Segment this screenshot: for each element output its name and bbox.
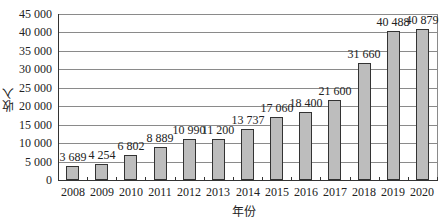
value-label: 31 660 xyxy=(339,48,389,60)
x-tick-label: 2013 xyxy=(203,186,233,198)
bar-2010 xyxy=(124,155,137,180)
x-tick-mark xyxy=(291,177,292,181)
bar-2008 xyxy=(66,166,79,180)
gridline xyxy=(58,32,437,33)
y-tick-label: 0 xyxy=(2,174,52,186)
y-tick-label: 5 000 xyxy=(2,156,52,168)
value-label: 13 737 xyxy=(223,114,273,126)
x-tick-label: 2020 xyxy=(407,186,437,198)
bar-2012 xyxy=(183,139,196,180)
y-tick-label: 25 000 xyxy=(2,82,52,94)
x-tick-mark xyxy=(175,177,176,181)
bar-2020 xyxy=(416,29,429,180)
value-label: 18 400 xyxy=(281,97,331,109)
y-tick-label: 35 000 xyxy=(2,45,52,57)
bar-2018 xyxy=(358,63,371,180)
gridline xyxy=(58,88,437,89)
x-tick-mark xyxy=(379,177,380,181)
x-tick-mark xyxy=(116,177,117,181)
x-tick-label: 2010 xyxy=(116,186,146,198)
right-frame-line xyxy=(437,14,438,180)
y-tick-label: 10 000 xyxy=(2,137,52,149)
y-tick-label: 45 000 xyxy=(2,8,52,20)
bar-2009 xyxy=(95,164,108,180)
bar-2017 xyxy=(328,100,341,180)
gridline xyxy=(58,180,437,181)
revenue-bar-chart: 收入 年份 05 00010 00015 00020 00025 00030 0… xyxy=(0,0,445,220)
bar-2015 xyxy=(270,117,283,180)
x-axis-title: 年份 xyxy=(232,202,256,220)
x-tick-mark xyxy=(262,177,263,181)
x-tick-mark xyxy=(233,177,234,181)
y-tick-label: 30 000 xyxy=(2,63,52,75)
x-tick-mark xyxy=(145,177,146,181)
gridline xyxy=(58,69,437,70)
x-tick-mark xyxy=(87,177,88,181)
x-tick-label: 2019 xyxy=(378,186,408,198)
bar-2016 xyxy=(299,112,312,180)
x-tick-mark xyxy=(204,177,205,181)
x-tick-label: 2011 xyxy=(145,186,175,198)
gridline xyxy=(58,106,437,107)
value-label: 21 600 xyxy=(310,85,360,97)
y-tick-label: 15 000 xyxy=(2,119,52,131)
x-tick-label: 2018 xyxy=(349,186,379,198)
x-tick-mark xyxy=(320,177,321,181)
x-tick-mark xyxy=(408,177,409,181)
y-tick-label: 20 000 xyxy=(2,100,52,112)
x-tick-label: 2009 xyxy=(87,186,117,198)
value-label: 40 879 xyxy=(397,14,445,26)
bar-2011 xyxy=(154,147,167,180)
x-tick-label: 2014 xyxy=(233,186,263,198)
bar-2014 xyxy=(241,129,254,180)
x-tick-mark xyxy=(437,177,438,181)
x-tick-label: 2012 xyxy=(174,186,204,198)
bar-2019 xyxy=(387,31,400,180)
x-tick-label: 2016 xyxy=(291,186,321,198)
x-tick-label: 2017 xyxy=(320,186,350,198)
y-tick-label: 40 000 xyxy=(2,26,52,38)
x-tick-label: 2008 xyxy=(58,186,88,198)
x-tick-mark xyxy=(350,177,351,181)
bar-2013 xyxy=(212,139,225,180)
x-tick-label: 2015 xyxy=(262,186,292,198)
